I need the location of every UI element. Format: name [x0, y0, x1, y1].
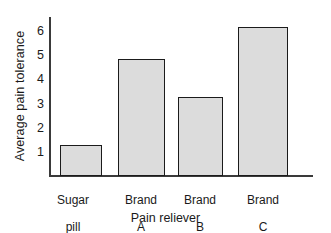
plot-area	[49, 18, 311, 176]
category-label-line1: Brand	[184, 193, 216, 207]
bar-brand-c	[238, 27, 288, 176]
y-tick-label-4: 4	[30, 73, 44, 85]
category-label-line1: Brand	[247, 193, 279, 207]
x-axis-title: Pain reliever	[0, 211, 331, 225]
y-tick-label-3: 3	[30, 98, 44, 110]
y-tick-label-2: 2	[30, 122, 44, 134]
y-tick-label-1: 1	[30, 146, 44, 158]
bar-sugar-pill	[60, 145, 102, 176]
bar-brand-b	[178, 97, 223, 176]
bar-chart-figure: Average pain tolerance 6 5 4 3 2 1 Sugar…	[0, 0, 331, 233]
category-label-brand-c: Brand C	[228, 180, 298, 233]
category-label-sugar-pill: Sugar pill	[38, 180, 108, 233]
bar-brand-a	[118, 59, 165, 176]
category-label-line1: Sugar	[57, 193, 89, 207]
y-tick-label-5: 5	[30, 49, 44, 61]
category-label-line1: Brand	[125, 193, 157, 207]
y-tick-label-6: 6	[30, 25, 44, 37]
category-label-brand-b: Brand B	[165, 180, 235, 233]
